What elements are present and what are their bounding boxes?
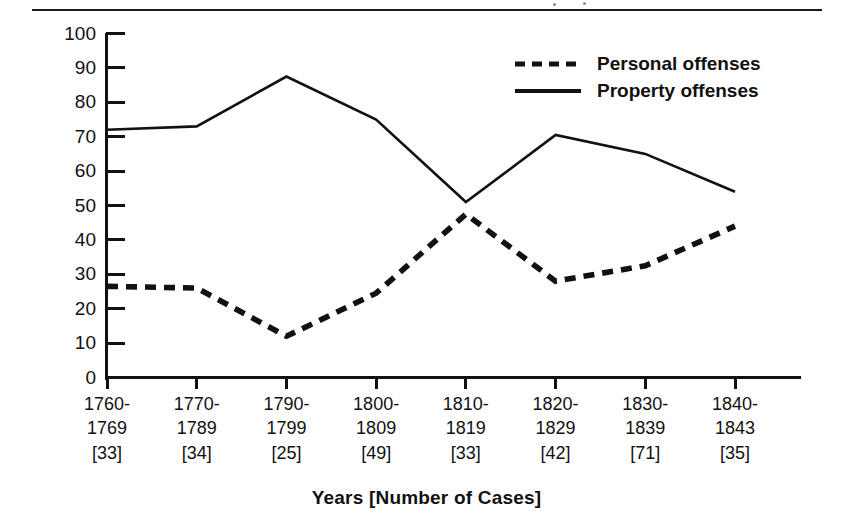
category-label-line-start: 1840- [680, 392, 790, 416]
y-axis-tick-label: 100 [44, 24, 96, 43]
y-axis-tick [106, 204, 125, 207]
legend-swatch-dashed-icon [515, 57, 581, 71]
x-axis-title: Years [Number of Cases] [0, 487, 853, 509]
y-axis-tick-label: 70 [44, 127, 96, 146]
page-divider-rule [32, 9, 822, 11]
legend-item-personal-offenses: Personal offenses [515, 50, 815, 77]
x-axis-tick [195, 377, 198, 389]
legend-label-property-offenses: Property offenses [597, 80, 759, 102]
legend-swatch-solid-icon [515, 84, 581, 98]
x-axis-line [105, 376, 801, 379]
series-line-personal-offenses [107, 214, 735, 336]
y-axis-tick-label: 20 [44, 299, 96, 318]
x-axis-tick [554, 377, 557, 389]
legend-label-personal-offenses: Personal offenses [597, 53, 761, 75]
chart-legend: Personal offenses Property offenses [515, 50, 815, 104]
x-axis-tick [644, 377, 647, 389]
x-axis-tick [464, 377, 467, 389]
category-label-line-end: 1843 [680, 416, 790, 440]
scan-speck [583, 2, 586, 5]
category-label-line-cases: [35] [680, 441, 790, 465]
y-axis-tick [106, 66, 125, 69]
y-axis-tick-label: 50 [44, 196, 96, 215]
y-axis-tick [106, 101, 125, 104]
y-axis-tick-label: 30 [44, 264, 96, 283]
y-axis-tick [106, 32, 125, 35]
y-axis-tick [106, 376, 125, 379]
y-axis-tick [106, 307, 125, 310]
scan-speck [553, 3, 556, 6]
x-axis-tick [106, 377, 109, 389]
figure-container: 1009080706050403020100 Personal offenses… [0, 0, 853, 532]
x-axis-tick [375, 377, 378, 389]
x-axis-category-label: 1840-1843[35] [680, 392, 790, 465]
y-axis-tick-label: 10 [44, 333, 96, 352]
y-axis-tick [106, 273, 125, 276]
y-axis-tick [106, 135, 125, 138]
y-axis-tick-label: 40 [44, 230, 96, 249]
y-axis-tick-label: 80 [44, 92, 96, 111]
y-axis-tick-label: 90 [44, 58, 96, 77]
y-axis-tick [106, 238, 125, 241]
x-axis-tick [734, 377, 737, 389]
y-axis-tick-label: 60 [44, 161, 96, 180]
y-axis-tick-label: 0 [44, 368, 96, 387]
legend-item-property-offenses: Property offenses [515, 77, 815, 104]
y-axis-tick [106, 342, 125, 345]
y-axis-tick [106, 170, 125, 173]
x-axis-tick [285, 377, 288, 389]
